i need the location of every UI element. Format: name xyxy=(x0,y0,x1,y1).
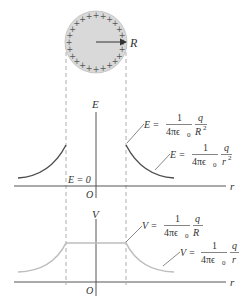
v-surface-frac1-den-sub: 0 xyxy=(185,232,189,240)
e-outside-frac1-den: 4πϵ xyxy=(192,156,206,167)
e-surface-frac2-den-sup: 2 xyxy=(203,124,207,132)
e-outside-frac2-num: q xyxy=(224,142,229,153)
v-outside-frac1-num: 1 xyxy=(212,240,217,251)
v-surface-lhs: V = xyxy=(142,220,157,231)
e-outside-frac2-den-sup: 2 xyxy=(228,154,232,162)
e-surface-frac2-num: q xyxy=(198,112,203,123)
potential-plot: V r O V = 1 4πϵ 0 q R V = 1 4πϵ 0 q r xyxy=(14,208,239,296)
charged-sphere: ++++++++++++++++++++++++ R xyxy=(65,11,138,74)
plus-charge-icon: + xyxy=(86,12,93,21)
v-origin-label: O xyxy=(86,285,93,296)
plus-charge-icon: + xyxy=(119,31,126,40)
e-field-right-curve xyxy=(126,145,174,178)
e-y-axis-label: E xyxy=(91,98,99,110)
v-outside-frac1-den: 4πϵ xyxy=(201,254,215,265)
e-outside-frac2-den: r xyxy=(222,156,226,167)
e-surface-frac1-den: 4πϵ xyxy=(166,126,180,137)
e-surface-leader xyxy=(127,124,144,143)
e-x-axis-label: r xyxy=(230,180,235,192)
e-outside-frac1-den-sub: 0 xyxy=(213,161,217,169)
v-outside-leader xyxy=(163,252,180,266)
plus-charge-icon: + xyxy=(93,11,100,20)
e-outside-leader xyxy=(155,154,170,170)
v-x-axis-label: r xyxy=(230,276,235,288)
v-outside-frac1-den-sub: 0 xyxy=(222,259,226,267)
e-outside-frac1-num: 1 xyxy=(203,142,208,153)
v-y-axis-label: V xyxy=(92,208,100,220)
e-outside-formula: E = 1 4πϵ 0 q r 2 xyxy=(169,142,232,169)
e-surface-formula: E = 1 4πϵ 0 q R 2 xyxy=(143,112,207,139)
plus-charge-icon: + xyxy=(106,61,113,70)
plus-charge-icon: + xyxy=(86,64,93,73)
v-surface-frac1-den: 4πϵ xyxy=(164,227,178,238)
radius-label: R xyxy=(129,36,138,50)
v-outside-formula: V = 1 4πϵ 0 q r xyxy=(180,240,239,267)
v-surface-frac2-den: R xyxy=(192,227,199,238)
electric-field-plot: E r O E = 0 E = 1 4πϵ 0 q R 2 E = 1 4πϵ … xyxy=(14,98,235,200)
v-surface-frac2-num: q xyxy=(195,213,200,224)
v-surface-formula: V = 1 4πϵ 0 q R xyxy=(142,213,203,240)
e-surface-frac1-den-sub: 0 xyxy=(187,131,191,139)
e-surface-lhs: E = xyxy=(143,119,159,130)
e-origin-label: O xyxy=(86,189,93,200)
v-outside-frac2-num: q xyxy=(232,240,237,251)
plus-charge-icon: + xyxy=(93,65,100,74)
v-outside-frac2-den: r xyxy=(232,254,236,265)
v-surface-leader xyxy=(126,226,142,242)
plus-charge-icon: + xyxy=(100,64,107,73)
v-surface-frac1-num: 1 xyxy=(175,213,180,224)
v-outside-lhs: V = xyxy=(180,247,195,258)
e-surface-frac1-num: 1 xyxy=(177,112,182,123)
e-field-left-curve xyxy=(18,145,66,178)
e-inside-zero-label: E = 0 xyxy=(67,174,91,185)
e-outside-lhs: E = xyxy=(169,149,185,160)
charged-sphere-diagram: ++++++++++++++++++++++++ R E r O E = 0 E… xyxy=(0,0,247,306)
e-surface-frac2-den: R xyxy=(194,126,201,137)
